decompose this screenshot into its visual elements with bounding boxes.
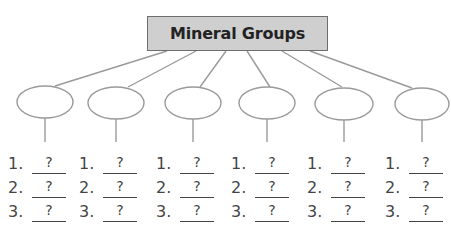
item-number: 3. [307,202,329,222]
answer-blank[interactable]: ? [103,201,137,222]
item-number: 3. [156,202,178,222]
connector-line-2 [128,51,196,87]
item-number: 1. [8,154,30,174]
list-item: 2.? [79,174,149,198]
item-number: 1. [385,154,407,174]
item-number: 2. [156,178,178,198]
list-item: 1.? [307,150,377,174]
title-box: Mineral Groups [147,16,328,51]
item-number: 3. [385,202,407,222]
group-list-2: 1.? 2.? 3.? [79,150,149,222]
list-item: 2.? [307,174,377,198]
answer-blank[interactable]: ? [409,201,443,222]
list-item: 3.? [79,198,149,222]
answer-blank[interactable]: ? [331,177,365,198]
answer-blank[interactable]: ? [331,153,365,174]
title-label: Mineral Groups [170,24,305,43]
list-item: 2.? [385,174,451,198]
answer-blank[interactable]: ? [180,153,214,174]
item-number: 2. [385,178,407,198]
connector-line-4 [247,51,270,87]
item-number: 2. [231,178,253,198]
list-item: 3.? [231,198,301,222]
answer-blank[interactable]: ? [409,153,443,174]
item-number: 1. [307,154,329,174]
group-oval-4[interactable] [239,87,295,119]
connector-line-6 [310,51,412,88]
answer-blank[interactable]: ? [103,177,137,198]
group-list-1: 1.? 2.? 3.? [8,150,78,222]
item-number: 3. [8,202,30,222]
group-list-3: 1.? 2.? 3.? [156,150,226,222]
connector-line-1 [55,51,167,86]
list-item: 1.? [231,150,301,174]
item-number: 2. [307,178,329,198]
connector-line-5 [282,51,342,87]
list-item: 2.? [156,174,226,198]
list-item: 1.? [385,150,451,174]
list-item: 1.? [156,150,226,174]
list-item: 2.? [8,174,78,198]
list-item: 3.? [8,198,78,222]
item-number: 3. [79,202,101,222]
group-list-6: 1.? 2.? 3.? [385,150,451,222]
item-number: 2. [79,178,101,198]
answer-blank[interactable]: ? [103,153,137,174]
answer-blank[interactable]: ? [32,153,66,174]
list-item: 1.? [8,150,78,174]
answer-blank[interactable]: ? [255,153,289,174]
list-item: 1.? [79,150,149,174]
group-oval-3[interactable] [165,87,221,119]
answer-blank[interactable]: ? [32,177,66,198]
answer-blank[interactable]: ? [180,177,214,198]
item-number: 1. [156,154,178,174]
answer-blank[interactable]: ? [331,201,365,222]
list-item: 3.? [385,198,451,222]
group-list-5: 1.? 2.? 3.? [307,150,377,222]
group-oval-1[interactable] [17,86,73,118]
group-oval-2[interactable] [88,87,144,119]
list-item: 3.? [307,198,377,222]
answer-blank[interactable]: ? [32,201,66,222]
item-number: 1. [231,154,253,174]
answer-blank[interactable]: ? [180,201,214,222]
group-oval-5[interactable] [315,88,373,120]
connector-line-3 [200,51,226,87]
list-item: 2.? [231,174,301,198]
item-number: 1. [79,154,101,174]
group-list-4: 1.? 2.? 3.? [231,150,301,222]
group-oval-6[interactable] [395,88,449,120]
answer-blank[interactable]: ? [255,177,289,198]
item-number: 2. [8,178,30,198]
item-number: 3. [231,202,253,222]
list-item: 3.? [156,198,226,222]
answer-blank[interactable]: ? [409,177,443,198]
answer-blank[interactable]: ? [255,201,289,222]
